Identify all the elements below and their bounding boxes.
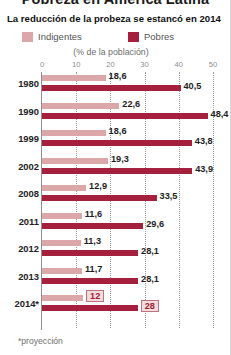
masthead-title: Pobreza en América Latina: [0, 0, 231, 5]
chart-headline: La reducción de la probeza se estancó en…: [7, 13, 217, 25]
bar-value-pobres-2014-proj: 28: [141, 300, 159, 312]
bar-indigentes-2011: [42, 213, 82, 219]
row-label-1980: 1980: [0, 78, 39, 89]
bar-value-pobres-1999: 43,8: [195, 136, 213, 146]
bar-indigentes-1999: [42, 130, 106, 136]
x-axis-tick-0: 0: [40, 60, 44, 69]
bar-value-indigentes-1990: 22,6: [122, 99, 140, 109]
bar-row: 201111,629,6: [0, 210, 222, 236]
bar-row: 200812,933,5: [0, 182, 222, 208]
bar-pobres-2008: [42, 195, 157, 201]
bar-pobres-1999: [42, 140, 192, 146]
bar-pobres-2014-proj: [42, 305, 138, 311]
chart-legend: Indigentes Pobres: [0, 31, 222, 45]
chart-footnote: *proyección: [18, 336, 63, 346]
x-axis-tick-50: 50: [209, 60, 217, 69]
bar-value-pobres-1980: 40,5: [184, 81, 202, 91]
bar-row: 199918,643,8: [0, 127, 222, 153]
bar-value-indigentes-2013: 11,7: [85, 264, 102, 274]
chart-page: Pobreza en América Latina La reducción d…: [0, 0, 231, 355]
bar-row: 201211,328,1: [0, 237, 222, 263]
bar-indigentes-2008: [42, 185, 86, 191]
bar-value-indigentes-2014-proj: 12: [86, 290, 104, 302]
bar-pobres-2011: [42, 223, 143, 229]
bar-pobres-2013: [42, 278, 138, 284]
chart-plot-area: 198018,640,5199022,648,4199918,643,82002…: [0, 72, 222, 330]
bar-indigentes-2012: [42, 240, 81, 246]
bar-value-pobres-2011: 29,6: [146, 219, 164, 229]
legend-label-pobres: Pobres: [144, 31, 174, 42]
bar-row: 199022,648,4: [0, 100, 222, 126]
legend-swatch-pobres-icon: [128, 32, 139, 42]
chart-subtitle: (% de la población): [0, 47, 222, 57]
bar-value-indigentes-2011: 11,6: [85, 209, 102, 219]
bar-row: 198018,640,5: [0, 72, 222, 98]
bar-row: 200219,343,9: [0, 155, 222, 181]
bar-value-indigentes-2012: 11,3: [84, 236, 101, 246]
bar-indigentes-2002: [42, 158, 108, 164]
legend-item-indigentes: Indigentes: [22, 31, 82, 42]
bar-pobres-1990: [42, 113, 208, 119]
row-label-1999: 1999: [0, 133, 39, 144]
row-label-2012: 2012: [0, 243, 39, 254]
bar-value-pobres-2012: 28,1: [141, 246, 159, 256]
bar-pobres-2002: [42, 168, 192, 174]
row-label-2008: 2008: [0, 188, 39, 199]
row-label-2002: 2002: [0, 161, 39, 172]
bar-value-indigentes-2002: 19,3: [111, 154, 129, 164]
x-axis-tick-30: 30: [140, 60, 148, 69]
bar-value-pobres-2002: 43,9: [195, 164, 213, 174]
x-axis-tick-labels: 01020304050: [0, 60, 222, 71]
bar-value-pobres-2008: 33,5: [160, 191, 178, 201]
x-axis-tick-10: 10: [72, 60, 80, 69]
bar-indigentes-1990: [42, 103, 119, 109]
legend-swatch-indigentes-icon: [22, 32, 33, 42]
bar-indigentes-1980: [42, 75, 106, 81]
bar-pobres-1980: [42, 85, 181, 91]
x-axis-tick-20: 20: [106, 60, 114, 69]
bar-value-indigentes-1980: 18,6: [109, 71, 127, 81]
bar-indigentes-2014-proj: [42, 295, 83, 301]
bar-value-pobres-2013: 28,1: [141, 274, 159, 284]
bar-value-pobres-1990: 48,4: [211, 109, 229, 119]
row-label-2013: 2013: [0, 271, 39, 282]
bar-rows: 198018,640,5199022,648,4199918,643,82002…: [0, 72, 222, 330]
bar-row: 201311,728,1: [0, 265, 222, 291]
bar-pobres-2012: [42, 250, 138, 256]
row-label-1990: 1990: [0, 106, 39, 117]
row-label-2011: 2011: [0, 216, 39, 227]
legend-item-pobres: Pobres: [128, 31, 174, 42]
legend-label-indigentes: Indigentes: [38, 31, 82, 42]
bar-value-indigentes-2008: 12,9: [89, 181, 107, 191]
x-axis-tick-40: 40: [175, 60, 183, 69]
row-label-2014-proj: 2014*: [0, 298, 39, 309]
bar-value-indigentes-1999: 18,6: [109, 126, 127, 136]
bar-indigentes-2013: [42, 268, 82, 274]
bar-row: 2014*1228: [0, 292, 222, 318]
